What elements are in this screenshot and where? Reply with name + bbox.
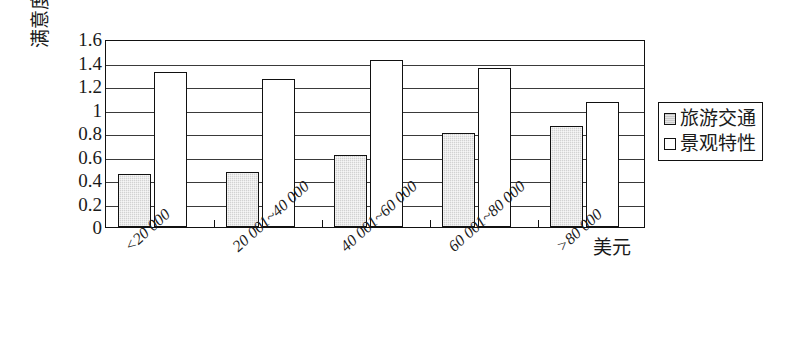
legend-swatch-icon-series-b <box>664 138 676 150</box>
y-axis-tick-label: 1.2 <box>58 77 102 96</box>
category-separator-tick <box>214 220 215 227</box>
y-axis-tick-label: 1.4 <box>58 54 102 73</box>
y-axis-title: 满意度均值 <box>26 0 54 80</box>
legend: 旅游交通 景观特性 <box>658 102 763 161</box>
bar <box>442 133 475 227</box>
y-axis-tick-label: 0 <box>58 218 102 237</box>
category-separator-tick <box>430 220 431 227</box>
x-axis-unit-label: 美元 <box>593 236 631 258</box>
y-axis-tick-label: 1.6 <box>58 30 102 49</box>
y-axis-tick-label: 1 <box>58 101 102 120</box>
legend-item-series-a[interactable]: 旅游交通 <box>664 106 756 131</box>
bar <box>550 126 583 227</box>
bar-chart: 满意度均值 1.61.41.210.80.60.40.20 <20 00020 … <box>0 0 810 359</box>
category-separator-tick <box>322 220 323 227</box>
legend-label-series-b: 景观特性 <box>680 133 756 154</box>
y-axis-tick-label: 0.6 <box>58 148 102 167</box>
y-axis-tick-label: 0.4 <box>58 171 102 190</box>
plot-area <box>105 40 645 228</box>
bar <box>154 72 187 227</box>
legend-item-series-b[interactable]: 景观特性 <box>664 131 756 156</box>
bar <box>334 155 367 227</box>
legend-swatch-icon-series-a <box>664 113 676 125</box>
y-axis-tick-label: 0.2 <box>58 195 102 214</box>
category-separator-tick <box>538 220 539 227</box>
y-axis-tick-label: 0.8 <box>58 124 102 143</box>
legend-label-series-a: 旅游交通 <box>680 108 756 129</box>
y-axis-tick-labels: 1.61.41.210.80.60.40.20 <box>58 0 102 359</box>
